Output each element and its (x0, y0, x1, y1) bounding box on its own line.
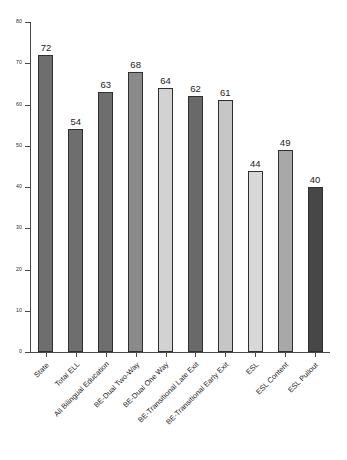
bar-value-label: 72 (41, 42, 52, 53)
x-axis-tick (166, 352, 167, 357)
bar-value-label: 68 (130, 59, 141, 70)
y-axis-tick-label: 40 (16, 183, 22, 189)
bar-chart: 01020304050607080 72546368646261444940 S… (0, 0, 347, 460)
x-axis-tick (225, 352, 226, 357)
x-axis-tick (76, 352, 77, 357)
x-axis-category-label: BE-Dual Two-Way (92, 360, 141, 409)
x-axis-category-label: ESL Content (254, 360, 290, 396)
x-axis-tick (255, 352, 256, 357)
y-axis-tick-label: 20 (16, 266, 22, 272)
bar: 61 (218, 100, 233, 352)
x-axis-category-label: ESL Pullout (286, 360, 320, 394)
y-axis-tick-label: 50 (16, 142, 22, 148)
bar-value-label: 49 (280, 137, 291, 148)
y-axis-tick-label: 30 (16, 224, 22, 230)
x-axis-tick (46, 352, 47, 357)
y-axis-tick-label: 60 (16, 101, 22, 107)
x-axis-tick (106, 352, 107, 357)
bar-value-label: 54 (71, 116, 82, 127)
bar: 72 (38, 55, 53, 352)
plot-area: 72546368646261444940 (31, 22, 330, 352)
x-axis-category-label: BE-Transitional Late Exit (136, 360, 201, 425)
x-axis-tick (315, 352, 316, 357)
x-axis-tick (136, 352, 137, 357)
bar-value-label: 40 (310, 174, 321, 185)
y-axis-tick-label: 80 (16, 18, 22, 24)
x-axis-category-label: State (32, 360, 51, 379)
bar: 40 (308, 187, 323, 352)
y-axis-tick-label: 0 (19, 348, 22, 354)
y-axis-tick-label: 70 (16, 59, 22, 65)
bar: 64 (158, 88, 173, 352)
bar: 68 (128, 72, 143, 353)
x-axis-tick (285, 352, 286, 357)
x-axis-tick (195, 352, 196, 357)
x-axis-category-label: ESL (244, 360, 260, 376)
x-axis-category-label: BE-Transitional Early Exit (164, 360, 230, 426)
bar: 44 (248, 171, 263, 353)
bar: 63 (98, 92, 113, 352)
bar-value-label: 62 (190, 83, 201, 94)
bar: 62 (188, 96, 203, 352)
bar-value-label: 64 (160, 75, 171, 86)
y-axis-tick-label: 10 (16, 307, 22, 313)
bar: 54 (68, 129, 83, 352)
x-axis-category-label: All Bilingual Education (52, 360, 111, 419)
y-axis-tick: 0 (25, 352, 31, 353)
bar: 49 (278, 150, 293, 352)
x-axis-category-label: Total ELL (53, 360, 81, 388)
bar-value-label: 63 (100, 79, 111, 90)
x-axis-category-label: BE-Dual One Way (121, 360, 170, 409)
bar-value-label: 44 (250, 158, 261, 169)
bar-value-label: 61 (220, 87, 231, 98)
